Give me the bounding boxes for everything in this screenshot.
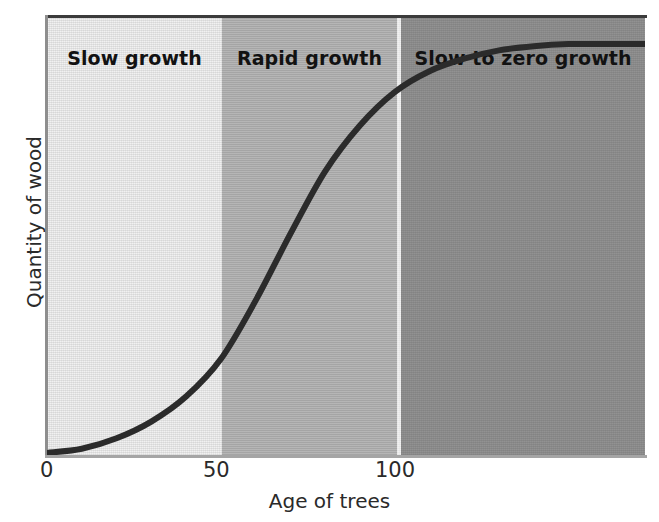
growth-curve-figure: Slow growth Rapid growth Slow to zero gr… (0, 0, 659, 522)
growth-curve (47, 17, 645, 455)
x-tick-label-100: 100 (375, 458, 415, 482)
x-axis-title: Age of trees (0, 489, 659, 513)
y-axis-title: Quantity of wood (22, 92, 46, 352)
x-tick-label-0: 0 (40, 458, 53, 482)
plot-area: Slow growth Rapid growth Slow to zero gr… (47, 17, 645, 455)
x-tick-label-50: 50 (203, 458, 230, 482)
x-axis-line (45, 455, 647, 458)
curve-path (47, 44, 645, 453)
